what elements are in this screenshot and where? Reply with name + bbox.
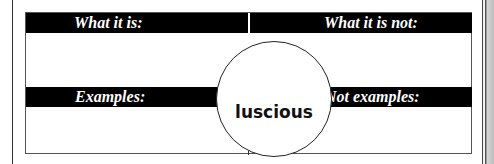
vocabulary-term: luscious [217, 102, 331, 122]
quadrant-header-what-it-is-not: What it is not: [250, 13, 472, 33]
quadrant-label-what-it-is: What it is: [74, 13, 142, 33]
quadrant-header-what-it-is: What it is: [26, 13, 248, 33]
page-right-border [481, 0, 494, 164]
frayer-model-organizer: What it is: What it is not: Examples: No… [25, 12, 472, 154]
top-divider [248, 13, 250, 33]
quadrant-label-not-examples: Not examples: [325, 87, 420, 107]
quadrant-label-what-it-is-not: What it is not: [324, 13, 418, 33]
quadrant-label-examples: Examples: [75, 87, 145, 107]
quadrant-header-examples: Examples: [26, 87, 248, 107]
term-circle: luscious [216, 41, 332, 157]
page-left-border [12, 0, 13, 164]
